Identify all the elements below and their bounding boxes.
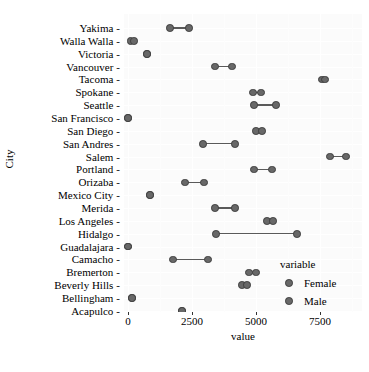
data-point-male[interactable] [231, 204, 239, 212]
grid-line-vertical [192, 14, 193, 312]
data-point-male[interactable] [185, 24, 193, 32]
dot-icon [280, 292, 298, 310]
data-point-male[interactable] [268, 166, 276, 174]
data-point-male[interactable] [124, 114, 132, 122]
data-point-female[interactable] [181, 179, 189, 187]
data-point-male[interactable] [146, 191, 154, 199]
y-tick-bellingham: Bellingham- [62, 292, 120, 304]
connector-segment [173, 259, 208, 260]
y-tick-los-angeles: Los Angeles- [59, 215, 120, 227]
data-point-female[interactable] [199, 140, 207, 148]
data-point-female[interactable] [166, 24, 174, 32]
connector-segment [203, 143, 235, 144]
data-point-female[interactable] [212, 230, 220, 238]
y-tick-mexico-city: Mexico City- [58, 189, 120, 201]
x-axis-ticks: 0250050007500 [0, 312, 369, 328]
data-point-male[interactable] [258, 127, 266, 135]
y-tick-salem: Salem- [86, 151, 120, 163]
data-point-male[interactable] [143, 50, 151, 58]
y-tick-portland: Portland- [76, 163, 120, 175]
legend-item-female[interactable]: Female [280, 274, 366, 292]
data-point-male[interactable] [342, 153, 350, 161]
data-point-female[interactable] [211, 204, 219, 212]
legend-item-male[interactable]: Male [280, 292, 366, 310]
y-tick-victoria: Victoria- [78, 48, 120, 60]
data-point-female[interactable] [169, 256, 177, 264]
data-point-female[interactable] [211, 63, 219, 71]
x-tick-label: 5000 [245, 315, 267, 327]
grid-line-vertical [256, 14, 257, 312]
data-point-male[interactable] [243, 281, 251, 289]
data-point-male[interactable] [252, 269, 260, 277]
x-axis-title: value [124, 330, 362, 342]
data-point-male[interactable] [257, 89, 265, 97]
chart-root: City Yakima-Walla Walla-Victoria-Vancouv… [0, 0, 369, 372]
data-point-male[interactable] [200, 179, 208, 187]
y-tick-san-andres: San Andres- [63, 138, 120, 150]
legend-title: variable [280, 258, 366, 270]
x-tick-label: 2500 [181, 315, 203, 327]
grid-line-vertical-minor [224, 14, 225, 312]
y-tick-san-diego: San Diego- [67, 125, 120, 137]
y-tick-spokane: Spokane- [75, 86, 120, 98]
y-tick-walla-walla: Walla Walla- [60, 35, 120, 47]
y-tick-seattle: Seattle- [83, 99, 120, 111]
legend-item-label: Male [304, 295, 327, 307]
data-point-male[interactable] [130, 37, 138, 45]
data-point-male[interactable] [321, 76, 329, 84]
data-point-female[interactable] [250, 166, 258, 174]
y-tick-orizaba: Orizaba- [79, 176, 120, 188]
data-point-female[interactable] [326, 153, 334, 161]
data-point-male[interactable] [124, 243, 132, 251]
data-point-female[interactable] [249, 89, 257, 97]
grid-line-vertical-minor [160, 14, 161, 312]
y-tick-merida: Merida- [82, 202, 120, 214]
grid-line-vertical [128, 14, 129, 312]
data-point-male[interactable] [128, 294, 136, 302]
data-point-male[interactable] [228, 63, 236, 71]
data-point-female[interactable] [250, 101, 258, 109]
y-tick-camacho: Camacho- [72, 253, 120, 265]
legend: variable FemaleMale [280, 258, 366, 310]
legend-item-label: Female [304, 277, 336, 289]
data-point-male[interactable] [204, 256, 212, 264]
legend-items: FemaleMale [280, 274, 366, 310]
y-tick-san-francisco: San Francisco- [51, 112, 120, 124]
data-point-male[interactable] [293, 230, 301, 238]
dot-icon [280, 274, 298, 292]
y-tick-hidalgo: Hidalgo- [78, 228, 120, 240]
y-tick-yakima: Yakima- [80, 22, 120, 34]
x-tick-label: 0 [125, 315, 131, 327]
x-tick-label: 7500 [309, 315, 331, 327]
y-tick-vancouver: Vancouver- [66, 61, 120, 73]
y-tick-tacoma: Tacoma- [79, 73, 120, 85]
y-tick-beverly-hills: Beverly Hills- [54, 279, 120, 291]
data-point-male[interactable] [231, 140, 239, 148]
y-tick-guadalajara: Guadalajara- [60, 241, 120, 253]
data-point-male[interactable] [269, 217, 277, 225]
y-tick-bremerton: Bremerton- [66, 266, 120, 278]
data-point-male[interactable] [272, 101, 280, 109]
connector-segment [216, 233, 297, 234]
